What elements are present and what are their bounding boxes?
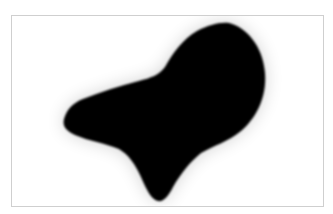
silhouette-image (11, 15, 324, 207)
silhouette-shape (64, 23, 266, 201)
image-frame (11, 15, 324, 207)
